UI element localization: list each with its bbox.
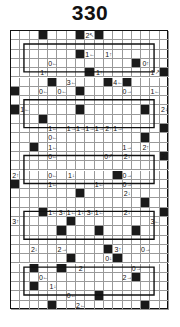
clue-cell[interactable]	[57, 87, 66, 96]
clue-cell[interactable]	[104, 254, 113, 263]
grid-cell[interactable]	[113, 264, 122, 273]
grid-cell[interactable]	[76, 180, 85, 189]
grid-cell[interactable]	[76, 245, 85, 254]
grid-cell[interactable]	[48, 50, 57, 59]
grid-cell[interactable]	[20, 124, 29, 133]
grid-cell[interactable]	[132, 189, 141, 198]
black-cell[interactable]	[48, 301, 57, 310]
grid-cell[interactable]	[39, 198, 48, 207]
grid-cell[interactable]	[141, 171, 150, 180]
clue-cell[interactable]	[141, 143, 150, 152]
grid-cell[interactable]	[95, 78, 104, 87]
grid-cell[interactable]	[30, 161, 39, 170]
grid-cell[interactable]	[20, 96, 29, 105]
grid-cell[interactable]	[141, 161, 150, 170]
grid-cell[interactable]	[67, 264, 76, 273]
grid-cell[interactable]	[39, 245, 48, 254]
grid-cell[interactable]	[95, 198, 104, 207]
grid-cell[interactable]	[141, 282, 150, 291]
clue-cell[interactable]	[30, 245, 39, 254]
clue-cell[interactable]	[150, 87, 159, 96]
grid-cell[interactable]	[113, 87, 122, 96]
grid-cell[interactable]	[85, 59, 94, 68]
grid-cell[interactable]	[76, 161, 85, 170]
grid-cell[interactable]	[57, 124, 66, 133]
black-cell[interactable]	[76, 31, 85, 40]
grid-cell[interactable]	[150, 291, 159, 300]
black-cell[interactable]	[39, 115, 48, 124]
black-cell[interactable]	[141, 198, 150, 207]
grid-cell[interactable]	[95, 161, 104, 170]
grid-cell[interactable]	[132, 105, 141, 114]
clue-cell[interactable]	[11, 171, 20, 180]
grid-cell[interactable]	[85, 254, 94, 263]
grid-cell[interactable]	[85, 180, 94, 189]
grid-cell[interactable]	[150, 50, 159, 59]
grid-cell[interactable]	[141, 264, 150, 273]
grid-cell[interactable]	[85, 171, 94, 180]
clue-cell[interactable]	[48, 208, 57, 217]
grid-cell[interactable]	[123, 124, 132, 133]
grid-cell[interactable]	[95, 301, 104, 310]
clue-cell[interactable]	[85, 124, 94, 133]
grid-cell[interactable]	[85, 133, 94, 142]
grid-cell[interactable]	[20, 273, 29, 282]
clue-cell[interactable]	[48, 133, 57, 142]
grid-cell[interactable]	[150, 152, 159, 161]
black-cell[interactable]	[104, 78, 113, 87]
grid-cell[interactable]	[141, 180, 150, 189]
grid-cell[interactable]	[57, 198, 66, 207]
black-cell[interactable]	[85, 68, 94, 77]
grid-cell[interactable]	[67, 180, 76, 189]
clue-cell[interactable]	[113, 124, 122, 133]
grid-cell[interactable]	[95, 115, 104, 124]
grid-cell[interactable]	[150, 124, 159, 133]
grid-cell[interactable]	[67, 143, 76, 152]
grid-cell[interactable]	[67, 133, 76, 142]
grid-cell[interactable]	[57, 291, 66, 300]
grid-cell[interactable]	[113, 208, 122, 217]
grid-cell[interactable]	[104, 59, 113, 68]
grid-cell[interactable]	[150, 171, 159, 180]
grid-cell[interactable]	[160, 245, 169, 254]
black-cell[interactable]	[132, 273, 141, 282]
grid-cell[interactable]	[104, 180, 113, 189]
grid-cell[interactable]	[113, 105, 122, 114]
grid-cell[interactable]	[57, 96, 66, 105]
grid-cell[interactable]	[39, 50, 48, 59]
grid-cell[interactable]	[48, 291, 57, 300]
black-cell[interactable]	[76, 87, 85, 96]
grid-cell[interactable]	[113, 115, 122, 124]
grid-cell[interactable]	[76, 198, 85, 207]
grid-cell[interactable]	[11, 50, 20, 59]
grid-cell[interactable]	[141, 87, 150, 96]
grid-cell[interactable]	[150, 133, 159, 142]
black-cell[interactable]	[67, 217, 76, 226]
grid-cell[interactable]	[104, 264, 113, 273]
grid-cell[interactable]	[160, 226, 169, 235]
grid-cell[interactable]	[11, 59, 20, 68]
grid-cell[interactable]	[160, 96, 169, 105]
grid-cell[interactable]	[11, 254, 20, 263]
grid-cell[interactable]	[113, 273, 122, 282]
grid-cell[interactable]	[132, 68, 141, 77]
black-cell[interactable]	[95, 291, 104, 300]
grid-cell[interactable]	[57, 105, 66, 114]
clue-cell[interactable]	[104, 152, 113, 161]
grid-cell[interactable]	[150, 236, 159, 245]
grid-cell[interactable]	[67, 189, 76, 198]
grid-cell[interactable]	[20, 226, 29, 235]
grid-cell[interactable]	[57, 273, 66, 282]
grid-cell[interactable]	[57, 59, 66, 68]
grid-cell[interactable]	[123, 31, 132, 40]
grid-cell[interactable]	[160, 133, 169, 142]
black-cell[interactable]	[95, 31, 104, 40]
grid-cell[interactable]	[11, 143, 20, 152]
grid-cell[interactable]	[48, 198, 57, 207]
grid-cell[interactable]	[113, 59, 122, 68]
clue-cell[interactable]	[123, 87, 132, 96]
grid-cell[interactable]	[30, 59, 39, 68]
clue-cell[interactable]	[67, 291, 76, 300]
grid-cell[interactable]	[160, 273, 169, 282]
grid-cell[interactable]	[95, 245, 104, 254]
